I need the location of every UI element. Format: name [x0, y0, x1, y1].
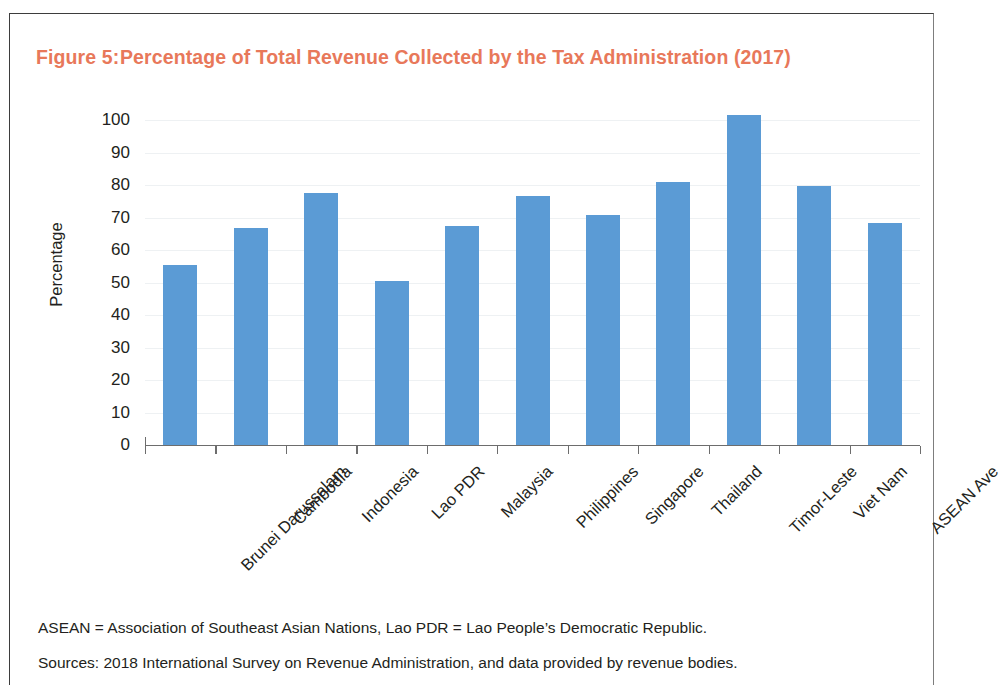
x-axis-category-label: Lao PDR: [427, 462, 488, 523]
x-axis-tick: [427, 446, 428, 454]
x-axis-tick: [497, 446, 498, 454]
x-axis-category-label: Malaysia: [497, 462, 556, 521]
x-axis-category-label: Philippines: [572, 462, 642, 532]
x-axis-tick: [709, 446, 710, 454]
bar: [727, 115, 761, 445]
gridline: [145, 153, 920, 154]
x-axis-category-label: Viet Nam: [850, 462, 911, 523]
x-axis-category-label: Indonesia: [358, 462, 422, 526]
y-axis-tick-label: 90: [78, 144, 130, 161]
x-axis-category-label: Singapore: [641, 462, 708, 529]
y-axis-tick-label: 10: [78, 404, 130, 421]
bar: [163, 265, 197, 445]
y-axis-tick-label: 70: [78, 209, 130, 226]
y-axis-tick-label: 60: [78, 241, 130, 258]
y-axis-title: Percentage: [47, 200, 66, 330]
y-axis-tick-label: 20: [78, 371, 130, 388]
y-axis-tick-label: 40: [78, 306, 130, 323]
bar: [375, 281, 409, 445]
footnote-sources: Sources: 2018 International Survey on Re…: [38, 654, 738, 672]
y-axis-tick-label: 50: [78, 274, 130, 291]
x-axis-tick: [920, 446, 921, 454]
x-axis-tick: [356, 446, 357, 454]
x-axis-tick: [286, 446, 287, 454]
gridline: [145, 120, 920, 121]
footnote-abbreviations: ASEAN = Association of Southeast Asian N…: [38, 619, 707, 637]
x-axis-tick: [215, 446, 216, 454]
bar: [304, 193, 338, 445]
bar: [586, 215, 620, 445]
x-axis-tick: [638, 446, 639, 454]
bar: [868, 223, 902, 445]
y-axis-tick-label: 80: [78, 176, 130, 193]
bar: [797, 186, 831, 445]
bar: [234, 228, 268, 445]
x-axis-tick: [779, 446, 780, 454]
y-axis-tick-label: 100: [78, 111, 130, 128]
y-axis-stub: [145, 437, 146, 446]
y-axis-tick-label: 0: [78, 436, 130, 453]
x-axis-tick: [850, 446, 851, 454]
x-axis-tick: [568, 446, 569, 454]
bar: [656, 182, 690, 445]
bar: [445, 226, 479, 445]
x-axis-category-label: Timor-Leste: [785, 462, 860, 537]
x-axis-category-label: Thailand: [708, 462, 766, 520]
y-axis-tick-label: 30: [78, 339, 130, 356]
bar: [516, 196, 550, 445]
x-axis-category-label: ASEAN Ave: [926, 462, 1001, 537]
x-axis-line: [145, 445, 920, 446]
x-axis-tick: [145, 446, 146, 454]
x-axis-category-label: Cambodia: [289, 462, 356, 529]
